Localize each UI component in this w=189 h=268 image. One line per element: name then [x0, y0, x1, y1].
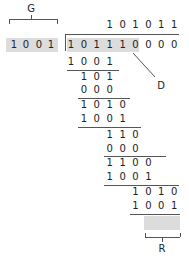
step-digit: 0 [104, 113, 116, 125]
step-digit: 1 [155, 186, 167, 198]
step-digit: 0 [104, 84, 116, 96]
step-digit: 1 [104, 71, 116, 83]
step-digit: 1 [104, 99, 116, 111]
step-digit: 1 [104, 157, 116, 169]
step-line [67, 70, 119, 71]
step-digit: 1 [117, 129, 129, 141]
step-digit: 0 [91, 99, 103, 111]
step-line [104, 185, 179, 186]
step-digit: 0 [130, 143, 142, 155]
step-digit: 1 [117, 157, 129, 169]
r-bracket-stem [162, 237, 163, 242]
remainder-label: R [156, 243, 168, 255]
step-digit: 0 [91, 56, 103, 68]
remainder-highlight [144, 216, 180, 230]
step-digit: 1 [65, 56, 77, 68]
step-digit: 1 [117, 113, 129, 125]
step-digit: 0 [91, 113, 103, 125]
r-bracket-right [180, 233, 181, 237]
step-digit: 0 [130, 157, 142, 169]
step-digit: 1 [78, 99, 90, 111]
step-digit: 0 [155, 200, 167, 212]
step-line [130, 214, 180, 215]
step-digit: 1 [104, 56, 116, 68]
step-digit: 0 [142, 186, 154, 198]
step-digit: 0 [78, 84, 90, 96]
step-digit: 0 [130, 171, 142, 183]
data-label: D [155, 80, 167, 92]
step-digit: 1 [130, 200, 142, 212]
step-digit: 0 [117, 99, 129, 111]
step-digit: 0 [78, 56, 90, 68]
step-digit: 1 [142, 171, 154, 183]
step-digit: 1 [104, 171, 116, 183]
step-line [78, 127, 141, 128]
step-digit: 0 [117, 171, 129, 183]
step-digit: 1 [130, 186, 142, 198]
step-digit: 0 [142, 200, 154, 212]
step-digit: 0 [117, 143, 129, 155]
step-line [104, 156, 166, 157]
step-digit: 0 [91, 71, 103, 83]
step-digit: 1 [78, 71, 90, 83]
step-digit: 1 [78, 113, 90, 125]
step-digit: 0 [168, 186, 180, 198]
step-digit: 1 [104, 129, 116, 141]
step-digit: 1 [168, 200, 180, 212]
step-digit: 0 [104, 143, 116, 155]
step-digit: 0 [142, 157, 154, 169]
step-digit: 0 [130, 129, 142, 141]
step-digit: 0 [91, 84, 103, 96]
step-line [78, 98, 130, 99]
